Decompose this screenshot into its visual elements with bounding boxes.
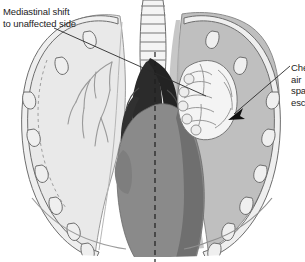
figure-canvas: Mediastinal shift to unaffected side Che… <box>0 0 305 262</box>
chest-anatomy-illustration <box>0 0 305 262</box>
mediastinal-shift-label: Mediastinal shift to unaffected side <box>3 6 76 29</box>
chest-wall-air-label-line3: spa <box>291 85 305 97</box>
chest-wall-air-label-line2: air <box>291 74 305 86</box>
right-lung-collapsed <box>178 61 237 140</box>
mediastinal-shift-label-line2: to unaffected side <box>3 18 76 30</box>
chest-wall-air-label-line4: esc <box>291 97 305 109</box>
chest-wall-air-label: Che air spa esc <box>291 62 305 108</box>
chest-wall-air-label-line1: Che <box>291 62 305 74</box>
mediastinal-shift-label-line1: Mediastinal shift <box>3 6 76 18</box>
